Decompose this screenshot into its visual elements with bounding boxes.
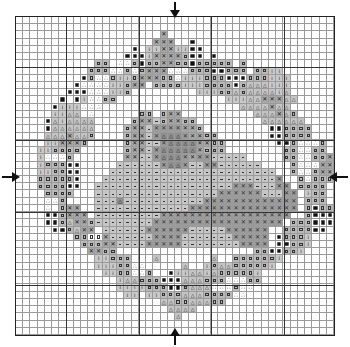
stitch-cell bbox=[88, 147, 95, 154]
stitch-cell bbox=[23, 68, 30, 75]
stitch-cell bbox=[305, 299, 312, 306]
stitch-cell bbox=[67, 205, 74, 212]
stitch-cell bbox=[218, 104, 225, 111]
stitch-cell bbox=[189, 270, 196, 277]
stitch-cell bbox=[146, 241, 153, 248]
stitch-cell bbox=[23, 190, 30, 197]
stitch-cell bbox=[95, 263, 102, 270]
stitch-cell bbox=[305, 111, 312, 118]
stitch-cell bbox=[247, 154, 254, 161]
stitch-cell bbox=[320, 140, 327, 147]
stitch-cell bbox=[161, 219, 168, 226]
stitch-cell bbox=[305, 176, 312, 183]
stitch-cell bbox=[240, 234, 247, 241]
stitch-cell bbox=[204, 169, 211, 176]
stitch-cell bbox=[262, 292, 269, 299]
stitch-cell bbox=[175, 82, 182, 89]
stitch-cell bbox=[81, 299, 88, 306]
stitch-cell bbox=[95, 68, 102, 75]
stitch-cell bbox=[67, 118, 74, 125]
stitch-cell bbox=[240, 89, 247, 96]
stitch-cell bbox=[67, 299, 74, 306]
stitch-cell bbox=[233, 169, 240, 176]
stitch-cell bbox=[67, 227, 74, 234]
stitch-cell bbox=[320, 118, 327, 125]
stitch-cell bbox=[247, 183, 254, 190]
stitch-cell bbox=[74, 176, 81, 183]
stitch-cell bbox=[182, 118, 189, 125]
stitch-cell bbox=[67, 82, 74, 89]
stitch-cell bbox=[240, 255, 247, 262]
stitch-cell bbox=[16, 328, 23, 335]
stitch-cell bbox=[74, 118, 81, 125]
stitch-cell bbox=[175, 234, 182, 241]
stitch-cell bbox=[52, 205, 59, 212]
stitch-cell bbox=[262, 147, 269, 154]
stitch-cell bbox=[262, 176, 269, 183]
stitch-cell bbox=[204, 227, 211, 234]
stitch-cell bbox=[262, 53, 269, 60]
stitch-cell bbox=[189, 292, 196, 299]
stitch-cell bbox=[67, 255, 74, 262]
stitch-cell bbox=[30, 321, 37, 328]
stitch-cell bbox=[139, 140, 146, 147]
stitch-cell bbox=[52, 176, 59, 183]
stitch-cell bbox=[254, 263, 261, 270]
stitch-cell bbox=[240, 96, 247, 103]
stitch-cell bbox=[298, 68, 305, 75]
stitch-cell bbox=[153, 313, 160, 320]
stitch-cell bbox=[312, 306, 319, 313]
stitch-cell bbox=[74, 17, 81, 24]
stitch-cell bbox=[81, 162, 88, 169]
stitch-cell bbox=[247, 190, 254, 197]
stitch-cell bbox=[161, 118, 168, 125]
stitch-cell bbox=[269, 321, 276, 328]
stitch-cell bbox=[110, 82, 117, 89]
stitch-cell bbox=[52, 270, 59, 277]
stitch-cell bbox=[103, 248, 110, 255]
stitch-cell bbox=[320, 104, 327, 111]
stitch-cell bbox=[23, 111, 30, 118]
stitch-cell bbox=[269, 68, 276, 75]
stitch-cell bbox=[276, 176, 283, 183]
stitch-cell bbox=[226, 68, 233, 75]
stitch-cell bbox=[226, 255, 233, 262]
stitch-cell bbox=[45, 75, 52, 82]
stitch-cell bbox=[161, 263, 168, 270]
stitch-cell bbox=[117, 118, 124, 125]
stitch-cell bbox=[30, 140, 37, 147]
stitch-cell bbox=[81, 205, 88, 212]
stitch-cell bbox=[233, 205, 240, 212]
stitch-cell bbox=[110, 96, 117, 103]
stitch-cell bbox=[117, 111, 124, 118]
stitch-cell bbox=[16, 24, 23, 31]
stitch-cell bbox=[88, 198, 95, 205]
stitch-cell bbox=[204, 277, 211, 284]
stitch-cell bbox=[197, 205, 204, 212]
stitch-cell bbox=[103, 154, 110, 161]
stitch-cell bbox=[262, 104, 269, 111]
stitch-cell bbox=[305, 183, 312, 190]
stitch-cell bbox=[153, 53, 160, 60]
stitch-cell bbox=[23, 183, 30, 190]
stitch-cell bbox=[103, 118, 110, 125]
stitch-cell bbox=[139, 234, 146, 241]
stitch-cell bbox=[45, 255, 52, 262]
stitch-cell bbox=[139, 292, 146, 299]
stitch-cell bbox=[240, 248, 247, 255]
stitch-cell bbox=[269, 183, 276, 190]
stitch-cell bbox=[269, 328, 276, 335]
stitch-cell bbox=[189, 234, 196, 241]
stitch-cell bbox=[254, 118, 261, 125]
stitch-cell bbox=[146, 227, 153, 234]
stitch-cell bbox=[320, 205, 327, 212]
stitch-cell bbox=[291, 248, 298, 255]
stitch-cell bbox=[16, 104, 23, 111]
stitch-cell bbox=[233, 328, 240, 335]
stitch-cell bbox=[298, 82, 305, 89]
stitch-cell bbox=[189, 190, 196, 197]
stitch-cell bbox=[197, 263, 204, 270]
stitch-cell bbox=[45, 82, 52, 89]
stitch-cell bbox=[262, 169, 269, 176]
stitch-cell bbox=[146, 190, 153, 197]
